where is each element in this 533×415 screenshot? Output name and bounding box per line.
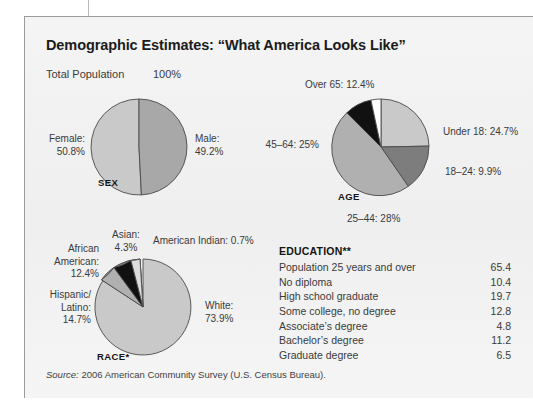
race-label-asian-line2: 4.3% — [115, 242, 138, 253]
education-row-value: 10.4 — [465, 275, 511, 290]
education-row-value: 12.8 — [465, 304, 511, 319]
sex-chart-caption: SEX — [98, 177, 118, 188]
race-label-african-american: African American: 12.4% — [29, 243, 99, 281]
table-row: Associate’s degree4.8 — [279, 318, 511, 333]
table-row: Population 25 years and over65.4 — [279, 260, 511, 275]
race-label-african-american-line2: American: — [54, 256, 99, 267]
race-label-white-line2: 73.9% — [205, 313, 233, 324]
education-row-value: 11.2 — [465, 333, 511, 348]
race-label-hispanic-latino-line2: Latino: — [61, 302, 91, 313]
table-row: Bachelor’s degree11.2 — [279, 333, 511, 348]
race-label-asian-line1: Asian: — [112, 229, 140, 240]
sex-label-female-line2: 50.8% — [57, 146, 85, 157]
age-pie-chart — [331, 97, 431, 197]
education-row-label: No diploma — [279, 275, 465, 290]
table-row: High school graduate19.7 — [279, 289, 511, 304]
education-row-label: Associate’s degree — [279, 318, 465, 333]
education-row-value: 65.4 — [465, 260, 511, 275]
age-chart-caption: AGE — [338, 191, 360, 202]
sex-slice-male — [139, 99, 187, 195]
education-row-label: Some college, no degree — [279, 304, 465, 319]
age-slice-under-18 — [381, 99, 429, 147]
race-label-african-american-line3: 12.4% — [71, 268, 99, 279]
age-label-over-65: Over 65: 12.4% — [305, 79, 374, 92]
sex-label-female-line1: Female: — [49, 133, 85, 144]
race-label-american-indian: American Indian: 0.7% — [153, 235, 254, 248]
total-population-label: Total Population — [46, 68, 124, 80]
sex-label-male-line1: Male: — [195, 133, 219, 144]
total-population-value: 100% — [153, 68, 181, 80]
race-label-hispanic-latino-line1: Hispanic/ — [50, 289, 91, 300]
education-row-value: 19.7 — [465, 289, 511, 304]
figure-title: Demographic Estimates: “What America Loo… — [46, 37, 406, 53]
education-row-label: Graduate degree — [279, 348, 465, 363]
age-label-45-64: 45–64: 25% — [233, 139, 319, 152]
age-pie-svg — [331, 97, 431, 197]
table-row: Graduate degree6.5 — [279, 348, 511, 363]
table-row: Some college, no degree12.8 — [279, 304, 511, 319]
education-row-label: High school graduate — [279, 289, 465, 304]
sex-label-male: Male: 49.2% — [195, 133, 223, 158]
education-rows: Population 25 years and over65.4No diplo… — [279, 260, 511, 362]
race-pie-svg — [93, 257, 193, 357]
race-label-hispanic-latino-line3: 14.7% — [63, 314, 91, 325]
race-pie-chart — [93, 257, 193, 357]
source-note: Source: 2006 American Community Survey (… — [46, 369, 326, 380]
race-label-white-line1: White: — [205, 300, 233, 311]
education-table-title: EDUCATION** — [279, 245, 511, 257]
race-label-african-american-line1: African — [68, 243, 99, 254]
race-label-asian: Asian: 4.3% — [103, 229, 149, 254]
sex-label-male-line2: 49.2% — [195, 146, 223, 157]
race-label-white: White: 73.9% — [205, 300, 233, 325]
race-chart-caption: RACE* — [97, 351, 130, 362]
page-gutter-rule — [88, 0, 89, 17]
education-row-value: 4.8 — [465, 318, 511, 333]
age-label-25-44: 25–44: 28% — [347, 213, 400, 226]
age-label-under-18: Under 18: 24.7% — [443, 126, 518, 139]
education-table: EDUCATION** Population 25 years and over… — [279, 245, 511, 362]
education-row-value: 6.5 — [465, 348, 511, 363]
race-label-hispanic-latino: Hispanic/ Latino: 14.7% — [25, 289, 91, 327]
source-text: 2006 American Community Survey (U.S. Cen… — [81, 369, 325, 380]
education-row-label: Bachelor’s degree — [279, 333, 465, 348]
figure-panel: Demographic Estimates: “What America Loo… — [24, 16, 533, 398]
table-row: No diploma10.4 — [279, 275, 511, 290]
source-prefix: Source: — [46, 369, 79, 380]
education-row-label: Population 25 years and over — [279, 260, 465, 275]
age-label-18-24: 18–24: 9.9% — [445, 166, 501, 179]
sex-label-female: Female: 50.8% — [33, 133, 85, 158]
